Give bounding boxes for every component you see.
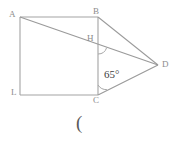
angle-label-65: 65° <box>104 69 119 80</box>
angle-arc-h <box>98 48 107 54</box>
geometry-canvas <box>0 0 190 143</box>
angle-arc-c <box>98 85 107 90</box>
vertex-label-c: C <box>93 96 99 105</box>
caption-parenthesis: ( <box>76 113 82 132</box>
vertex-label-h: H <box>87 34 94 43</box>
vertex-label-b: B <box>93 7 99 16</box>
vertex-label-l: L <box>11 88 17 97</box>
geometry-figure: A B C D H L 65° ( <box>0 0 190 143</box>
vertex-label-d: D <box>162 60 169 69</box>
segment-bd <box>98 17 158 65</box>
vertex-label-a: A <box>9 10 16 19</box>
